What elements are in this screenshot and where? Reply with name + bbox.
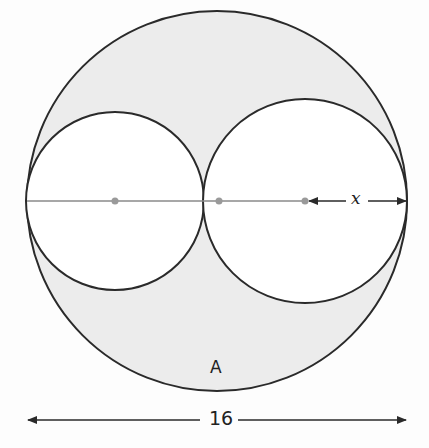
right-center-dot (302, 198, 309, 205)
geometry-figure: A x 16 (0, 0, 429, 448)
width-16-label: 16 (205, 407, 237, 429)
circles-diagram (0, 0, 429, 448)
radius-x-label: x (348, 188, 364, 208)
left-center-dot (112, 198, 119, 205)
outer-center-dot (216, 198, 223, 205)
region-a-label: A (210, 357, 222, 377)
